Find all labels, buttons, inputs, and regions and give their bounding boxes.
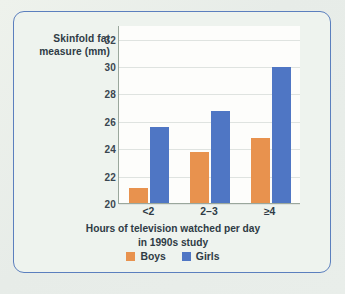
legend-item-girls[interactable]: Girls [182,251,220,262]
plot-area [118,26,300,204]
chart-legend: BoysGirls [28,251,318,262]
y-axis-tick-label: 26 [104,116,116,127]
legend-label: Boys [140,251,165,262]
y-axis-tick-label: 30 [104,62,116,73]
plot-wrapper: 20222426283032 [118,26,300,204]
y-axis-tick-label: 20 [104,199,116,210]
legend-swatch-boys [126,252,135,261]
x-axis-category-labels: <22–3≥4 [118,206,300,222]
y-axis-tick-labels: 20222426283032 [94,26,116,204]
x-axis-category-label: 2–3 [200,206,217,217]
bar-girls-1 [211,111,230,203]
x-axis-category-label: ≥4 [264,206,275,217]
x-axis-category-label: <2 [142,206,154,217]
y-axis-tick-label: 24 [104,144,116,155]
x-axis-title: Hours of television watched per day in 1… [28,222,318,249]
chart-screenshot: Skinfold fat measure (mm) 20222426283032… [0,0,345,294]
legend-item-boys[interactable]: Boys [126,251,165,262]
legend-swatch-girls [182,252,191,261]
y-axis-tick-label: 28 [104,89,116,100]
legend-label: Girls [196,251,220,262]
x-axis-line [119,203,300,204]
y-axis-tick-label: 22 [104,171,116,182]
gridline [119,204,300,205]
bar-girls-2 [272,67,291,203]
bar-boys-2 [251,138,270,203]
bar-boys-0 [129,188,148,203]
y-axis-tick-label: 32 [104,34,116,45]
x-axis-title-line-1: Hours of television watched per day [28,222,318,236]
bars-layer [119,26,300,204]
x-axis-title-line-2: in 1990s study [28,236,318,250]
bar-boys-1 [190,152,209,203]
bar-girls-0 [150,127,169,203]
